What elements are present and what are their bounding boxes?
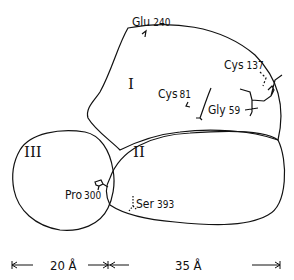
residue-cys81-label: Cys81 bbox=[158, 87, 191, 101]
scale-right-label: 35 Å bbox=[175, 258, 202, 273]
glu240-sidechain bbox=[142, 31, 146, 37]
protein-domain-diagram: I II III Glu240 Cys137 Cys81 Gly59 Pro30… bbox=[0, 0, 294, 280]
ligand-structure bbox=[240, 75, 282, 116]
residue-pro300-label: Pro300 bbox=[65, 188, 102, 202]
cys81-sidechain bbox=[186, 102, 190, 107]
residue-glu240-label: Glu240 bbox=[132, 15, 171, 29]
domain-3-label: III bbox=[24, 143, 42, 161]
scale-left-arrow bbox=[12, 262, 33, 268]
domain-2-label: II bbox=[133, 143, 145, 161]
scale-right-arrow bbox=[252, 262, 280, 268]
residue-cys137-label: Cys137 bbox=[224, 58, 264, 72]
residue-ser393-label: Ser393 bbox=[136, 197, 174, 211]
scale-mid-arrow-out bbox=[108, 262, 129, 268]
residue-gly59-label: Gly59 bbox=[208, 103, 240, 117]
domain-1-label: I bbox=[128, 75, 134, 93]
cys137-sidechain bbox=[260, 72, 266, 86]
scale-mid-arrow-in bbox=[88, 262, 108, 268]
domain-1-outline bbox=[87, 25, 280, 150]
scale-left-label: 20 Å bbox=[50, 258, 77, 273]
